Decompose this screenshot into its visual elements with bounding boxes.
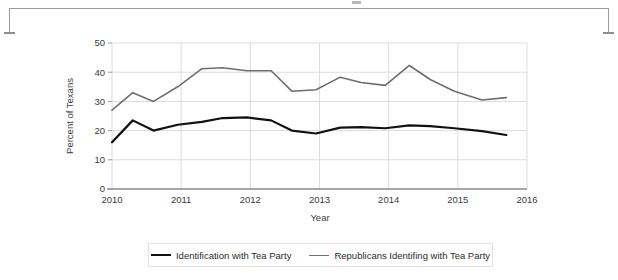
- x-tick-label: 2016: [516, 194, 537, 205]
- x-tick-label: 2013: [309, 194, 330, 205]
- chart-figure: 01020304050 2010201120122013201420152016…: [0, 0, 618, 280]
- y-tick-label: 40: [94, 67, 105, 78]
- x-tick-label: 2010: [101, 194, 122, 205]
- legend-line-icon-republicans: [309, 255, 329, 256]
- legend-item-republicans: Republicans Identifing with Tea Party: [309, 250, 490, 261]
- legend-label-republicans: Republicans Identifing with Tea Party: [334, 250, 490, 261]
- chart-legend: Identification with Tea Party Republican…: [148, 243, 493, 267]
- x-axis-title: Year: [310, 212, 329, 223]
- gridlines: [112, 43, 527, 189]
- y-axis-title: Percent of Texans: [64, 78, 75, 154]
- legend-item-identification: Identification with Tea Party: [151, 250, 291, 261]
- axis-lines: [107, 43, 527, 189]
- y-tick-label: 50: [94, 37, 105, 48]
- x-tick-label: 2012: [240, 194, 261, 205]
- y-tick-label: 30: [94, 96, 105, 107]
- y-tick-label: 10: [94, 154, 105, 165]
- series-line-0: [112, 117, 506, 142]
- y-tick-label: 0: [100, 183, 105, 194]
- x-tick-label: 2011: [171, 194, 191, 205]
- legend-label-identification: Identification with Tea Party: [176, 250, 291, 261]
- y-tick-label: 20: [94, 125, 105, 136]
- x-tick-label: 2014: [378, 194, 399, 205]
- legend-line-icon-identification: [151, 254, 171, 256]
- line-chart-plot: 01020304050 2010201120122013201420152016…: [0, 0, 618, 280]
- x-tick-labels: 2010201120122013201420152016: [101, 194, 537, 205]
- x-tick-label: 2015: [447, 194, 468, 205]
- y-tick-labels: 01020304050: [94, 37, 105, 194]
